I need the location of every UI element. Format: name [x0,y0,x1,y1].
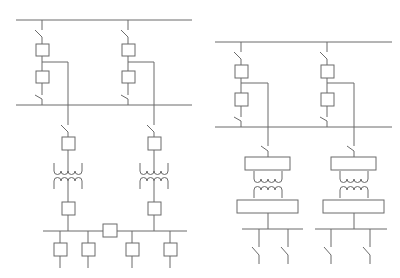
switch-blade [121,30,128,37]
transformer-bay [140,62,168,231]
disconnect-switch-icon [281,244,288,258]
switch-blade [234,117,241,121]
disconnect-switch-icon [347,143,354,154]
switch-blade [35,30,42,37]
switch-blade [320,52,327,59]
feeder [82,231,95,268]
disconnect-switch-icon [234,114,241,124]
transformer-icon [340,171,368,198]
right-scheme [215,42,392,264]
circuit-breaker [122,71,135,83]
switch-blade [252,247,259,255]
circuit-breaker [122,44,135,56]
switch-blade [147,125,154,132]
feeder-breaker [54,243,67,256]
hv-switchgear-block [245,157,290,170]
secondary-winding [340,187,368,198]
feeder [54,231,67,268]
feeder [324,229,331,264]
bus-tie-breaker [103,224,117,237]
disconnect-switch-icon [121,92,128,102]
disconnect-switch-icon [61,122,68,135]
primary-winding [340,171,368,183]
feeder [363,229,370,264]
circuit-breaker [148,137,161,150]
hv-switchgear-block [331,157,376,170]
feeder [281,229,288,264]
disconnect-switch-icon [121,27,128,40]
circuit-breaker [235,93,248,106]
incoming-bay [35,20,68,105]
disconnect-switch-icon [234,49,241,62]
circuit-breaker [62,202,75,215]
disconnect-switch-icon [261,143,268,154]
disconnect-switch-icon [35,92,42,102]
switch-blade [320,117,327,121]
switch-blade [61,125,68,132]
transformer-icon [254,171,282,198]
disconnect-switch-icon [324,244,331,258]
switch-blade [347,146,354,151]
circuit-breaker [321,93,334,106]
left-scheme [16,20,192,268]
primary-winding [254,171,282,183]
switch-blade [281,247,288,255]
feeder-breaker [164,243,177,256]
switch-blade [324,247,331,255]
circuit-breaker [36,44,49,56]
incoming-bay [320,42,354,127]
feeder [126,231,139,268]
disconnect-switch-icon [252,244,259,258]
feeder [252,229,259,264]
circuit-breaker [62,137,75,150]
disconnect-switch-icon [35,27,42,40]
circuit-breaker [321,65,334,78]
disconnect-switch-icon [147,122,154,135]
incoming-bay [234,42,268,127]
disconnect-switch-icon [320,114,327,124]
feeder [164,231,177,268]
switch-blade [121,95,128,99]
switch-blade [261,146,268,151]
circuit-breaker [36,71,49,83]
secondary-winding [254,187,282,198]
circuit-breaker [148,202,161,215]
circuit-breaker [235,65,248,78]
disconnect-switch-icon [320,49,327,62]
feeder-breaker [126,243,139,256]
transformer-bay [54,62,82,231]
switch-blade [363,247,370,255]
single-line-diagram [0,0,400,278]
lv-switchgear-block [323,200,384,213]
lv-switchgear-block [237,200,298,213]
incoming-bay [121,20,154,105]
feeder-breaker [82,243,95,256]
switch-blade [234,52,241,59]
switch-blade [35,95,42,99]
disconnect-switch-icon [363,244,370,258]
